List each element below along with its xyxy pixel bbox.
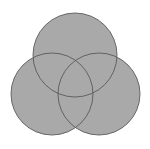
venn-diagram	[0, 0, 150, 149]
circle-fills	[11, 13, 140, 135]
